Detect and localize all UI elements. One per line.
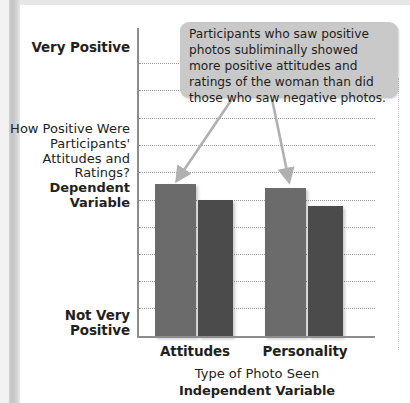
y-axis-title: How Positive Were Participants' Attitude… (8, 122, 130, 211)
x-category-label-personality: Personality (250, 343, 360, 359)
x-axis-line (137, 336, 375, 338)
chart-page: Very Positive How Positive Were Particip… (0, 0, 410, 403)
bar-personality-negative (308, 206, 343, 337)
y-axis-top-label: Very Positive (8, 40, 130, 55)
y-axis-title-text: How Positive Were Participants' Attitude… (8, 122, 130, 181)
gridline (139, 145, 375, 146)
bar-attitudes-negative (198, 200, 233, 337)
gridline (139, 172, 375, 173)
bar-attitudes-positive (155, 184, 196, 337)
bar-chart: Very Positive How Positive Were Particip… (0, 0, 410, 403)
y-axis-variable-type: Dependent Variable (8, 181, 130, 211)
x-axis-title: Type of Photo Seen (137, 366, 377, 381)
callout-text: Participants who saw positive photos sub… (189, 27, 391, 107)
y-axis-line (137, 28, 139, 338)
x-axis-variable-type: Independent Variable (137, 383, 377, 398)
gridline (139, 118, 375, 119)
x-category-label-attitudes: Attitudes (145, 343, 245, 359)
y-axis-bottom-label: Not Very Positive (8, 308, 130, 339)
bar-personality-positive (265, 188, 306, 337)
